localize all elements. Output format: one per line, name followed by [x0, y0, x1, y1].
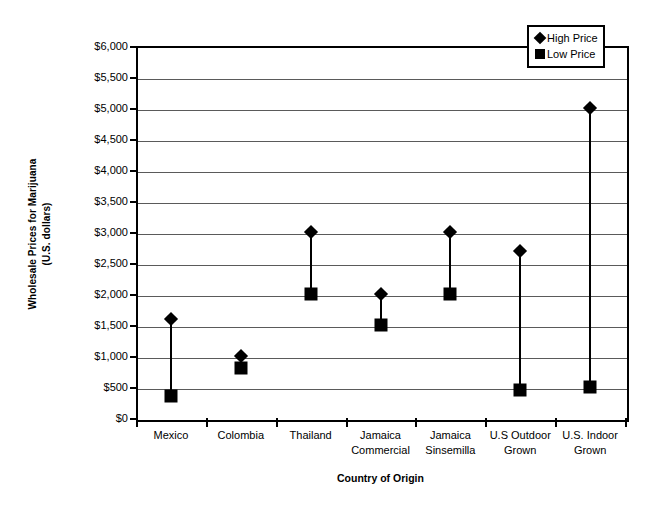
y-axis-tick-label: $1,000	[64, 351, 128, 362]
y-axis-title-line2: (U.S. dollars)	[41, 202, 52, 265]
gridline	[138, 358, 627, 359]
x-axis-category-label: U.S. Indoor Grown	[555, 428, 625, 472]
gridline	[138, 265, 627, 266]
chart-legend: High Price Low Price	[527, 25, 605, 68]
x-axis-tick-mark	[625, 418, 627, 427]
x-axis-tick-mark	[206, 418, 208, 427]
diamond-marker-icon	[533, 31, 547, 45]
x-axis-tick-mark	[415, 418, 417, 427]
y-axis-tick-label: $1,500	[64, 320, 128, 331]
gridline	[138, 234, 627, 235]
x-axis-category-label: Thailand	[276, 428, 346, 472]
y-axis-title: Wholesale Prices for Marijuana (U.S. dol…	[18, 0, 62, 508]
y-axis-tick-label: $5,500	[64, 72, 128, 83]
x-axis-category-label: Jamaica Commercial	[346, 428, 416, 472]
x-axis-tick-mark	[136, 418, 138, 427]
gridline	[138, 110, 627, 111]
x-axis-tick-mark	[485, 418, 487, 427]
y-axis-tick-label: $5,000	[64, 103, 128, 114]
x-axis-tick-mark	[555, 418, 557, 427]
x-axis-category-labels: MexicoColombiaThailandJamaica Commercial…	[136, 428, 625, 472]
y-axis-tick-label: $6,000	[64, 41, 128, 52]
y-axis-tick-label: $0	[64, 413, 128, 424]
y-axis-tick-label: $4,500	[64, 134, 128, 145]
y-axis-tick-label: $4,000	[64, 165, 128, 176]
gridline	[138, 296, 627, 297]
y-axis-tick-label: $2,500	[64, 258, 128, 269]
y-axis-tick-label: $3,000	[64, 227, 128, 238]
legend-label-high-price: High Price	[547, 32, 598, 44]
gridline	[138, 327, 627, 328]
x-axis-category-label: Colombia	[206, 428, 276, 472]
x-axis-title: Country of Origin	[136, 472, 625, 484]
legend-label-low-price: Low Price	[547, 48, 595, 60]
x-axis-category-label: Jamaica Sinsemilla	[415, 428, 485, 472]
legend-item-high-price: High Price	[533, 30, 599, 46]
square-marker-icon	[533, 47, 547, 61]
x-axis-category-label: U.S Outdoor Grown	[485, 428, 555, 472]
legend-item-low-price: Low Price	[533, 46, 599, 62]
x-axis-tick-mark	[276, 418, 278, 427]
x-axis-tick-mark	[346, 418, 348, 427]
gridline	[138, 203, 627, 204]
gridline	[138, 79, 627, 80]
gridline	[138, 389, 627, 390]
y-axis-tick-label: $2,000	[64, 289, 128, 300]
wholesale-price-chart: Wholesale Prices for Marijuana (U.S. dol…	[0, 0, 658, 508]
y-axis-tick-labels: $0$500$1,000$1,500$2,000$2,500$3,000$3,5…	[62, 46, 128, 418]
y-axis-title-line1: Wholesale Prices for Marijuana	[27, 159, 38, 310]
plot-area	[136, 46, 629, 422]
x-axis-category-label: Mexico	[136, 428, 206, 472]
y-axis-tick-label: $3,500	[64, 196, 128, 207]
y-axis-tick-label: $500	[64, 382, 128, 393]
gridline	[138, 141, 627, 142]
gridline	[138, 172, 627, 173]
